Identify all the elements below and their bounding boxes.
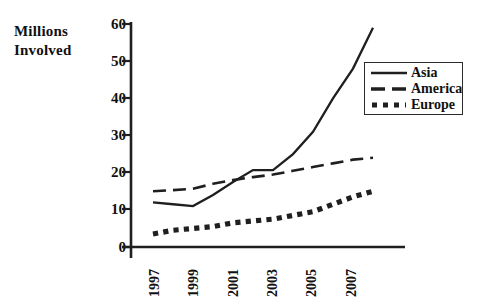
line-chart-figure: Millions Involved 60 50 40 30 20 10 0 19… [0, 0, 488, 308]
series-line-europe [153, 191, 373, 234]
series-line-asia [153, 28, 373, 206]
legend-swatch-solid [370, 67, 408, 79]
legend-entry-asia: Asia [370, 65, 437, 81]
plot-area [0, 0, 488, 308]
legend-swatch-dotted [370, 99, 408, 111]
y-axis-tick-marks [122, 24, 131, 247]
axis-lines [122, 22, 405, 258]
legend-swatch-dashed [370, 83, 408, 95]
series-line-america [153, 158, 373, 191]
chart-screenshot: Millions Involved 60 50 40 30 20 10 0 19… [0, 0, 488, 308]
legend-entry-europe: Europe [370, 97, 455, 113]
legend-label-america: America [411, 82, 462, 96]
data-series-layer [153, 28, 373, 234]
legend-entry-america: America [370, 81, 462, 97]
legend-label-europe: Europe [411, 98, 455, 112]
legend-label-asia: Asia [411, 66, 437, 80]
chart-legend: Asia America Europe [364, 62, 463, 115]
